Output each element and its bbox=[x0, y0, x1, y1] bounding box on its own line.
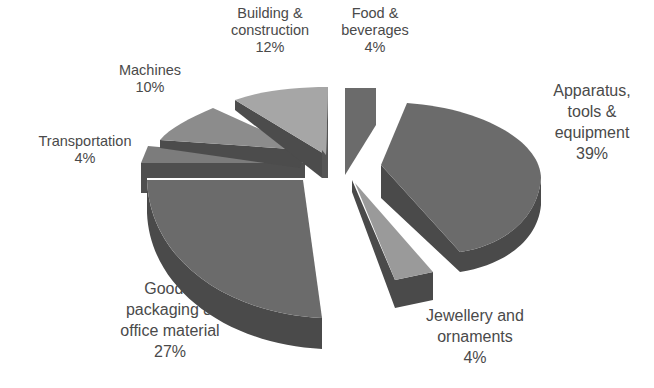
label-apparatus-tools-equipment: Apparatus, tools & equipment 39% bbox=[530, 80, 654, 164]
label-machines: Machines 10% bbox=[100, 62, 200, 96]
label-transportation: Transportation 4% bbox=[20, 133, 150, 167]
label-jewellery-ornaments: Jewellery and ornaments 4% bbox=[400, 305, 550, 368]
slice-food-beverages bbox=[345, 88, 376, 175]
label-food-beverages: Food & beverages 4% bbox=[320, 5, 430, 56]
label-building-construction: Building & construction 12% bbox=[210, 5, 330, 56]
label-goods-packaging-office: Goods, packaging & office material 27% bbox=[80, 278, 260, 362]
